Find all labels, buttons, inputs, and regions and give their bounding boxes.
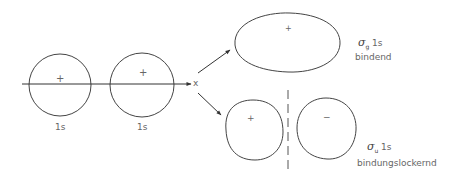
antibonding-sign-minus: − bbox=[323, 112, 331, 122]
arrow-to-antibonding bbox=[198, 93, 221, 115]
antibonding-sign-plus: + bbox=[247, 113, 255, 123]
ao2-sign: + bbox=[139, 67, 147, 78]
bonding-orbital-shape bbox=[235, 13, 340, 72]
bonding-sign: + bbox=[285, 24, 292, 33]
ao1-sign: + bbox=[56, 73, 64, 84]
antibonding-symbol: σu bbox=[367, 140, 378, 153]
ao1-label: 1s bbox=[55, 122, 65, 132]
arrow-to-bonding bbox=[198, 50, 230, 73]
bonding-symbol: σg bbox=[358, 36, 369, 49]
bonding-orbital-label: 1s bbox=[372, 38, 382, 48]
antibonding-orbital-label: 1s bbox=[381, 142, 391, 152]
x-axis-label: x bbox=[193, 78, 198, 88]
mo-diagram bbox=[0, 0, 452, 181]
antibonding-lobe-minus bbox=[297, 98, 356, 159]
antibonding-description: bindungslockernd bbox=[357, 158, 437, 168]
atomic-orbital-1-circle bbox=[29, 54, 91, 116]
ao2-label: 1s bbox=[137, 122, 147, 132]
bonding-description: bindend bbox=[355, 52, 392, 62]
antibonding-lobe-plus bbox=[226, 100, 283, 160]
atomic-orbital-2-circle bbox=[110, 53, 174, 117]
